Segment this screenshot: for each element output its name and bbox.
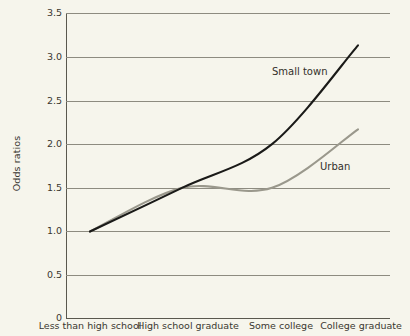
x-axis-tick-labels: Less than high school High school gradua…: [36, 320, 410, 336]
x-tick-label: Less than high school: [39, 320, 142, 332]
y-tick-label: 0.5: [24, 270, 62, 280]
y-axis-tick-labels: 3.5 3.0 2.5 2.0 1.5 1.0 0.5 0: [22, 0, 62, 336]
y-tick-label: 2.5: [24, 96, 62, 106]
y-tick-label: 3.5: [24, 8, 62, 18]
y-tick-label: 3.0: [24, 52, 62, 62]
y-tick-label: 2.0: [24, 139, 62, 149]
y-tick-label: 1.0: [24, 226, 62, 236]
y-tick-label: 1.5: [24, 183, 62, 193]
chart-figure: Odds ratios 3.5 3.0 2.5 2.0 1.5 1.0 0.5 …: [0, 0, 410, 336]
x-tick-label: College graduate: [320, 320, 402, 332]
x-tick-label: Some college: [249, 320, 313, 332]
series-annotation-urban: Urban: [320, 161, 350, 172]
urban-series-line: [90, 129, 358, 231]
x-tick-label: High school graduate: [137, 320, 239, 332]
series-annotation-small-town: Small town: [272, 66, 328, 77]
y-axis-title: Odds ratios: [11, 124, 22, 204]
